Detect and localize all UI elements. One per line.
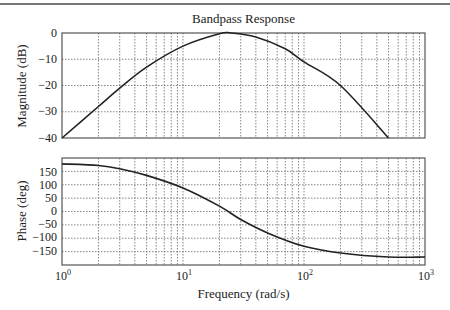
mag-tick: −10 xyxy=(17,52,57,67)
x-tick-1e3: 103 xyxy=(411,268,441,284)
x-axis-label: Frequency (rad/s) xyxy=(62,286,425,302)
phase-tick: −150 xyxy=(17,244,57,259)
phase-tick: −100 xyxy=(17,230,57,245)
x-tick-1e1: 101 xyxy=(169,268,199,284)
bode-plot xyxy=(0,0,450,310)
x-tick-1e0: 100 xyxy=(48,268,78,284)
phase-curve xyxy=(62,164,425,257)
mag-tick: −20 xyxy=(17,78,57,93)
mag-tick: 0 xyxy=(17,26,57,41)
mag-tick: −40 xyxy=(17,131,57,146)
mag-tick: −30 xyxy=(17,104,57,119)
x-tick-1e2: 102 xyxy=(290,268,320,284)
